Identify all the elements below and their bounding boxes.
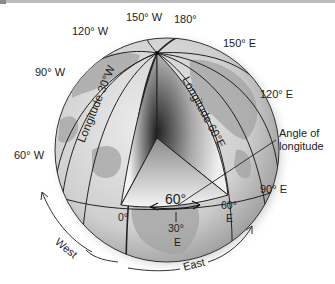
north-pole-dot [155, 51, 159, 55]
callout-angle-of: Angle of [279, 128, 319, 139]
label-60e-letter: E [226, 213, 233, 224]
label-90e: 90° E [260, 184, 287, 195]
label-60e-deg: 60° [221, 200, 237, 211]
label-120w: 120° W [72, 26, 108, 37]
label-0: 0° [118, 212, 128, 223]
label-150w: 150° W [126, 12, 162, 23]
label-60w: 60° W [14, 150, 44, 161]
label-90w: 90° W [35, 67, 65, 78]
callout-longitude: longitude [279, 141, 324, 152]
label-180: 180° [174, 14, 197, 25]
label-30e-deg: 30° [168, 223, 184, 234]
label-30e-letter: E [174, 237, 181, 248]
angle-value-label: 60° [165, 192, 186, 206]
label-150e: 150° E [223, 38, 256, 49]
label-120e: 120° E [260, 89, 293, 100]
